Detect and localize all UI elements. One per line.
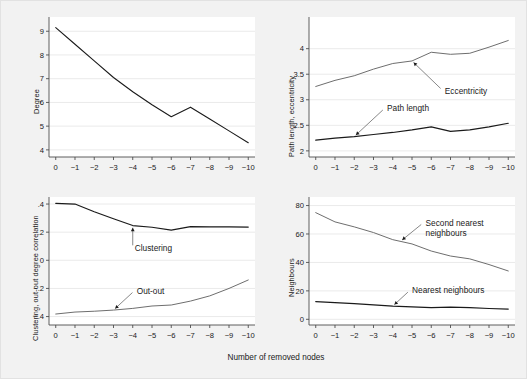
svg-text:−7: −7 <box>186 163 195 172</box>
svg-text:−3: −3 <box>109 163 118 172</box>
svg-text:Nearest neighbours: Nearest neighbours <box>412 285 484 295</box>
axis-title-degree: Degree <box>32 89 41 114</box>
svg-text:−4: −4 <box>388 331 397 340</box>
svg-text:−6: −6 <box>427 163 436 172</box>
svg-text:8: 8 <box>40 51 44 60</box>
svg-text:4: 4 <box>300 44 304 53</box>
axis-title-neighbours: Neighbours <box>287 258 296 297</box>
plot-degree: 4567890−1−2−3−4−5−6−7−8−9−10 <box>23 9 261 179</box>
axis-title-clustering: Clustering, out-out degree correlation <box>31 215 40 341</box>
svg-text:40: 40 <box>296 258 304 267</box>
svg-text:−10: −10 <box>502 163 515 172</box>
svg-text:−10: −10 <box>502 331 515 340</box>
svg-text:−9: −9 <box>485 331 494 340</box>
svg-text:−7: −7 <box>446 331 455 340</box>
panel-neighbours: Neighbours 0204060800−1−2−3−4−5−6−7−8−9−… <box>278 189 521 347</box>
svg-text:−6: −6 <box>167 163 176 172</box>
svg-text:7: 7 <box>40 74 44 83</box>
svg-text:−4: −4 <box>388 163 397 172</box>
svg-text:−3: −3 <box>369 163 378 172</box>
svg-text:−5: −5 <box>148 331 157 340</box>
svg-text:−9: −9 <box>485 163 494 172</box>
svg-text:−1: −1 <box>71 331 80 340</box>
svg-text:20: 20 <box>296 287 304 296</box>
plot-clustering: .4.20−.2−.40−1−2−3−4−5−6−7−8−9−10Cluster… <box>23 189 261 347</box>
svg-text:−5: −5 <box>148 163 157 172</box>
svg-text:−8: −8 <box>205 331 214 340</box>
svg-text:−3: −3 <box>109 331 118 340</box>
svg-text:3: 3 <box>300 95 304 104</box>
svg-text:4: 4 <box>40 146 44 155</box>
svg-text:Out-out: Out-out <box>137 286 165 296</box>
svg-text:−1: −1 <box>331 331 340 340</box>
svg-text:−5: −5 <box>408 163 417 172</box>
svg-text:−5: −5 <box>408 331 417 340</box>
svg-text:−2: −2 <box>350 163 359 172</box>
svg-text:−9: −9 <box>225 331 234 340</box>
svg-text:.4: .4 <box>38 200 44 209</box>
svg-text:−3: −3 <box>369 331 378 340</box>
svg-text:2: 2 <box>300 147 304 156</box>
svg-text:−2: −2 <box>350 331 359 340</box>
svg-text:Second nearest: Second nearest <box>426 218 485 228</box>
svg-text:neighbours: neighbours <box>426 228 467 238</box>
svg-text:−8: −8 <box>205 163 214 172</box>
svg-text:0: 0 <box>40 256 44 265</box>
svg-text:−6: −6 <box>167 331 176 340</box>
svg-text:−2: −2 <box>90 163 99 172</box>
svg-text:0: 0 <box>314 163 318 172</box>
svg-text:−1: −1 <box>71 163 80 172</box>
svg-text:60: 60 <box>296 230 304 239</box>
svg-text:−7: −7 <box>186 331 195 340</box>
panel-clustering: Clustering, out-out degree correlation .… <box>23 189 261 347</box>
svg-text:5: 5 <box>40 122 44 131</box>
x-axis-label: Number of removed nodes <box>161 353 391 362</box>
svg-text:−9: −9 <box>225 163 234 172</box>
svg-text:Eccentricity: Eccentricity <box>445 86 488 96</box>
svg-text:Clustering: Clustering <box>135 243 173 253</box>
svg-text:−6: −6 <box>427 331 436 340</box>
svg-text:−7: −7 <box>446 163 455 172</box>
svg-text:−10: −10 <box>242 331 255 340</box>
svg-text:−8: −8 <box>465 331 474 340</box>
svg-text:Path length: Path length <box>387 103 429 113</box>
svg-text:−10: −10 <box>242 163 255 172</box>
svg-text:0: 0 <box>314 331 318 340</box>
svg-text:−8: −8 <box>465 163 474 172</box>
axis-title-pathlength: Path length, eccentricity <box>287 76 296 157</box>
plot-neighbours: 0204060800−1−2−3−4−5−6−7−8−9−10Second ne… <box>278 189 521 347</box>
figure-container: Degree 4567890−1−2−3−4−5−6−7−8−9−10 Path… <box>0 0 527 379</box>
svg-text:0: 0 <box>300 315 304 324</box>
svg-text:−4: −4 <box>128 331 137 340</box>
svg-text:−2: −2 <box>90 331 99 340</box>
svg-text:80: 80 <box>296 201 304 210</box>
svg-text:−4: −4 <box>128 163 137 172</box>
panel-pathlength: Path length, eccentricity 22.533.540−1−2… <box>278 9 521 179</box>
svg-text:0: 0 <box>54 331 58 340</box>
panel-degree: Degree 4567890−1−2−3−4−5−6−7−8−9−10 <box>23 9 261 179</box>
plot-pathlength: 22.533.540−1−2−3−4−5−6−7−8−9−10Eccentric… <box>278 9 521 179</box>
svg-text:9: 9 <box>40 27 44 36</box>
svg-text:−1: −1 <box>331 163 340 172</box>
svg-text:0: 0 <box>54 163 58 172</box>
